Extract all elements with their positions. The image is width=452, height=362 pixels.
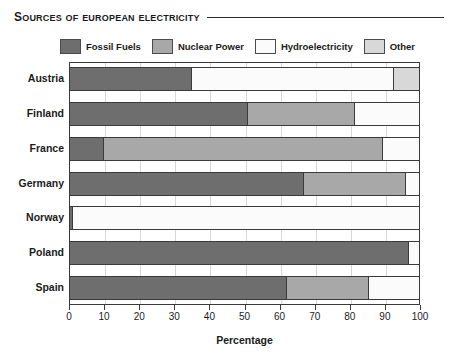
x-tick-40 (209, 305, 210, 310)
x-tick-10 (104, 305, 105, 310)
legend-label-hydro: Hydroelectricity (281, 41, 353, 52)
bar-segment-france-hydroelectricity (383, 137, 420, 161)
legend-item-nuclear: Nuclear Power (152, 39, 244, 54)
bar-segment-france-fossil-fuels (69, 137, 104, 161)
title-rule (207, 17, 444, 18)
category-label-poland: Poland (0, 246, 64, 258)
bar-segment-poland-fossil-fuels (69, 241, 409, 265)
bar-row-spain (69, 276, 420, 300)
x-tick-50 (245, 305, 246, 310)
bar-segment-austria-fossil-fuels (69, 67, 192, 91)
x-tick-70 (315, 305, 316, 310)
bar-segment-norway-hydroelectricity (73, 206, 420, 230)
x-tick-label-100: 100 (405, 311, 435, 322)
x-tick-label-20: 20 (124, 311, 154, 322)
bar-row-poland (69, 241, 420, 265)
bar-segment-germany-nuclear-power (304, 172, 406, 196)
chart-page: Sources of European Electricity Fossil F… (0, 0, 452, 362)
bar-segment-austria-other (394, 67, 420, 91)
x-tick-60 (280, 305, 281, 310)
bar-segment-germany-hydroelectricity (406, 172, 420, 196)
x-tick-30 (174, 305, 175, 310)
x-tick-label-90: 90 (370, 311, 400, 322)
x-axis-tick-labels: 0102030405060708090100 (0, 311, 452, 325)
category-label-finland: Finland (0, 107, 64, 119)
category-label-france: France (0, 142, 64, 154)
bar-segment-austria-hydroelectricity (192, 67, 394, 91)
chart-legend: Fossil FuelsNuclear PowerHydroelectricit… (60, 36, 445, 56)
bar-row-france (69, 137, 420, 161)
bar-segment-spain-fossil-fuels (69, 276, 287, 300)
category-label-austria: Austria (0, 72, 64, 84)
bar-row-finland (69, 102, 420, 126)
bar-segment-spain-nuclear-power (287, 276, 369, 300)
bar-row-austria (69, 67, 420, 91)
category-label-norway: Norway (0, 211, 64, 223)
category-axis-labels: AustriaFinlandFranceGermanyNorwayPolandS… (0, 62, 64, 305)
bar-segment-germany-fossil-fuels (69, 172, 304, 196)
bar-row-norway (69, 206, 420, 230)
x-tick-label-70: 70 (300, 311, 330, 322)
legend-item-fossil: Fossil Fuels (60, 39, 141, 54)
legend-swatch-nuclear (152, 39, 173, 54)
x-tick-100 (420, 305, 421, 310)
bar-segment-spain-hydroelectricity (369, 276, 420, 300)
x-axis-title: Percentage (69, 334, 420, 346)
x-tick-label-10: 10 (89, 311, 119, 322)
page-title: Sources of European Electricity (14, 6, 200, 26)
chart-title-row: Sources of European Electricity (14, 6, 444, 28)
legend-item-other: Other (364, 39, 415, 54)
x-tick-label-40: 40 (194, 311, 224, 322)
bar-row-germany (69, 172, 420, 196)
legend-swatch-other (364, 39, 385, 54)
legend-label-fossil: Fossil Fuels (86, 41, 141, 52)
legend-label-other: Other (390, 41, 415, 52)
legend-label-nuclear: Nuclear Power (178, 41, 244, 52)
x-tick-label-80: 80 (335, 311, 365, 322)
x-tick-80 (350, 305, 351, 310)
bars-layer (69, 62, 420, 305)
x-tick-90 (385, 305, 386, 310)
legend-swatch-fossil (60, 39, 81, 54)
legend-item-hydro: Hydroelectricity (255, 39, 353, 54)
x-tick-label-50: 50 (230, 311, 260, 322)
bar-segment-finland-fossil-fuels (69, 102, 248, 126)
legend-swatch-hydro (255, 39, 276, 54)
x-tick-label-60: 60 (265, 311, 295, 322)
category-label-germany: Germany (0, 177, 64, 189)
bar-segment-finland-nuclear-power (248, 102, 355, 126)
x-tick-label-0: 0 (54, 311, 84, 322)
bar-segment-france-nuclear-power (104, 137, 383, 161)
bar-segment-poland-hydroelectricity (409, 241, 420, 265)
x-tick-0 (69, 305, 70, 310)
x-tick-label-30: 30 (159, 311, 189, 322)
category-label-spain: Spain (0, 281, 64, 293)
x-tick-20 (139, 305, 140, 310)
bar-segment-finland-hydroelectricity (355, 102, 420, 126)
